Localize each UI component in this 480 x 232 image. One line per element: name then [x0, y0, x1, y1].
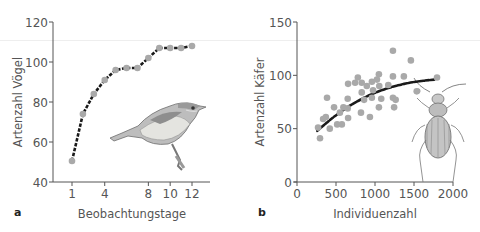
chart-b-points — [315, 48, 441, 142]
x-tick-label: 10 — [163, 187, 178, 201]
x-tick-label: 8 — [145, 187, 153, 201]
data-point — [178, 45, 185, 52]
y-tick-label: 100 — [25, 56, 48, 70]
data-point — [358, 109, 365, 116]
data-point — [134, 65, 141, 72]
panel-label-a: a — [14, 206, 21, 219]
chart-b-y-axis-title: Artenzahl Käfer — [253, 57, 267, 146]
chart-b: 0501001500500100015002000 b Individuenza… — [253, 16, 468, 222]
data-point — [344, 96, 351, 103]
data-point — [317, 135, 324, 142]
data-point — [376, 104, 383, 111]
y-tick-label: 40 — [33, 176, 48, 190]
data-point — [344, 105, 351, 112]
x-tick-label: 1000 — [360, 187, 391, 201]
figure: 4060801001201481012 a Beobachtungstage A… — [0, 0, 480, 232]
x-tick-label: 12 — [184, 187, 199, 201]
y-tick-label: 150 — [269, 16, 292, 30]
y-tick-label: 100 — [269, 69, 292, 83]
data-point — [391, 104, 398, 111]
data-point — [369, 94, 376, 101]
data-point — [390, 48, 397, 55]
chart-b-x-axis-title: Individuenzahl — [333, 207, 417, 221]
data-point — [80, 111, 87, 118]
data-point — [320, 116, 327, 123]
data-point — [156, 45, 163, 52]
data-point — [345, 115, 352, 122]
data-point — [378, 96, 385, 103]
data-point — [324, 94, 331, 101]
x-tick-label: 1500 — [399, 187, 430, 201]
x-tick-label: 2000 — [438, 187, 469, 201]
data-point — [189, 43, 196, 50]
chart-a-line — [72, 46, 192, 161]
x-tick-label: 1 — [68, 187, 76, 201]
data-point — [91, 91, 98, 98]
data-point — [392, 97, 399, 104]
x-tick-label: 500 — [325, 187, 348, 201]
data-point — [345, 81, 352, 88]
data-point — [367, 114, 374, 121]
data-point — [390, 73, 397, 80]
data-point — [361, 97, 368, 104]
data-point — [401, 73, 408, 80]
data-point — [385, 82, 392, 89]
data-point — [358, 89, 365, 96]
data-point — [364, 83, 371, 90]
x-tick-label: 0 — [293, 187, 301, 201]
y-tick-label: 0 — [284, 176, 292, 190]
chart-a: 4060801001201481012 a Beobachtungstage A… — [11, 16, 210, 222]
data-point — [370, 87, 377, 94]
data-point — [167, 45, 174, 52]
data-point — [101, 77, 108, 84]
x-tick-label: 4 — [101, 187, 109, 201]
panel-label-b: b — [258, 206, 266, 219]
data-point — [331, 104, 338, 111]
data-point — [145, 55, 152, 62]
data-point — [376, 83, 383, 90]
chart-a-x-axis-title: Beobachtungstage — [78, 207, 186, 221]
data-point — [315, 124, 322, 131]
y-tick-label: 60 — [33, 136, 48, 150]
data-point — [434, 74, 441, 81]
data-point — [413, 88, 420, 95]
y-tick-label: 120 — [25, 16, 48, 30]
data-point — [376, 71, 383, 78]
y-tick-label: 50 — [277, 122, 292, 136]
beetle-icon — [412, 78, 466, 182]
y-tick-label: 80 — [33, 96, 48, 110]
data-point — [69, 158, 76, 165]
data-point — [355, 74, 362, 81]
data-point — [339, 121, 346, 128]
data-point — [326, 125, 333, 132]
data-point — [123, 65, 130, 72]
bird-icon — [110, 102, 206, 170]
data-point — [112, 67, 119, 74]
chart-a-y-axis-title: Artenzahl Vögel — [11, 57, 25, 147]
data-point — [408, 57, 415, 64]
